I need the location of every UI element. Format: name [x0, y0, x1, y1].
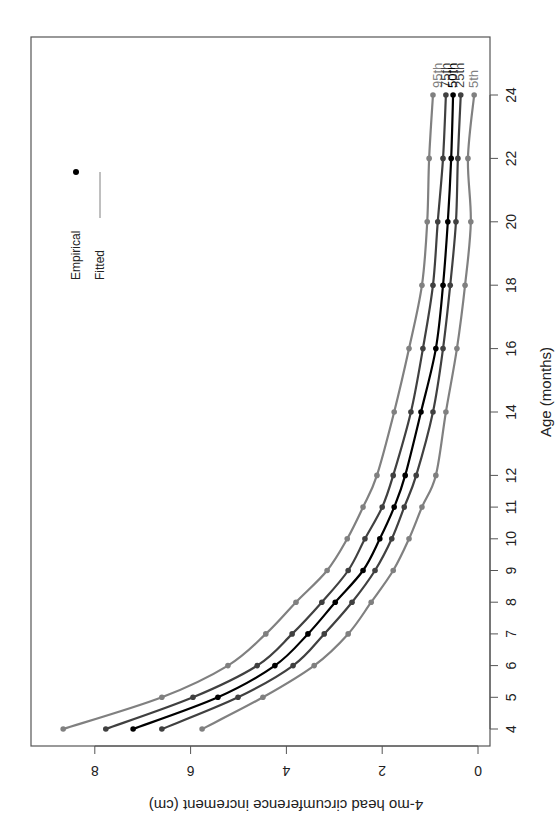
y-tick-label: 0	[474, 763, 482, 779]
empirical-point	[418, 409, 424, 415]
empirical-point	[419, 282, 425, 288]
empirical-point	[462, 282, 468, 288]
empirical-point	[389, 536, 395, 542]
x-tick-label: 24	[503, 87, 519, 103]
x-tick-label: 16	[503, 341, 519, 357]
empirical-point	[453, 219, 459, 225]
legend-empirical-dot-icon	[73, 169, 79, 175]
empirical-point	[450, 92, 456, 98]
empirical-point	[324, 568, 330, 574]
empirical-point	[465, 156, 471, 162]
empirical-point	[402, 473, 408, 479]
x-tick-label: 10	[503, 531, 519, 547]
legend-empirical-label: Empirical	[69, 231, 83, 280]
empirical-point	[443, 409, 449, 415]
x-tick-label: 7	[503, 630, 519, 638]
empirical-point	[433, 473, 439, 479]
series-25th	[159, 92, 463, 732]
empirical-point	[360, 504, 366, 510]
empirical-point	[424, 219, 430, 225]
empirical-point	[379, 504, 385, 510]
x-tick-label: 8	[503, 598, 519, 606]
empirical-point	[332, 599, 338, 605]
x-tick-label: 6	[503, 661, 519, 669]
empirical-point	[293, 599, 299, 605]
x-tick-label: 5	[503, 693, 519, 701]
y-tick-label: 8	[91, 763, 99, 779]
empirical-point	[440, 282, 446, 288]
empirical-point	[401, 504, 407, 510]
fitted-line	[63, 95, 433, 729]
empirical-point	[458, 92, 464, 98]
empirical-point	[321, 631, 327, 637]
empirical-point	[305, 631, 311, 637]
x-axis-title: Age (months)	[537, 347, 554, 437]
empirical-point	[190, 695, 196, 701]
empirical-point	[471, 92, 477, 98]
empirical-point	[362, 536, 368, 542]
empirical-point	[406, 536, 412, 542]
empirical-point	[225, 663, 231, 669]
percentile-chart: 456789101112141618202224 02468 95th75th5…	[0, 0, 560, 839]
empirical-point	[468, 219, 474, 225]
empirical-point	[349, 599, 355, 605]
empirical-point	[426, 156, 432, 162]
empirical-point	[374, 473, 380, 479]
empirical-point	[368, 599, 374, 605]
percentile-labels: 95th75th50th25th5th	[430, 63, 481, 88]
x-tick-label: 9	[503, 566, 519, 574]
empirical-point	[311, 663, 317, 669]
empirical-point	[406, 346, 412, 352]
empirical-point	[360, 568, 366, 574]
empirical-point	[130, 726, 136, 732]
percentile-label-25th: 25th	[452, 63, 467, 88]
empirical-point	[430, 282, 436, 288]
legend-fitted-label: Fitted	[93, 250, 107, 280]
y-tick-label: 4	[282, 763, 290, 779]
empirical-point	[433, 346, 439, 352]
y-axis-increment: 02468	[91, 746, 482, 779]
empirical-point	[254, 663, 260, 669]
empirical-point	[430, 409, 436, 415]
empirical-point	[419, 504, 425, 510]
empirical-point	[215, 695, 221, 701]
x-tick-label: 4	[503, 725, 519, 733]
empirical-point	[103, 726, 109, 732]
x-tick-label: 14	[503, 404, 519, 420]
empirical-point	[159, 695, 165, 701]
legend: Empirical Fitted	[69, 169, 107, 280]
empirical-point	[260, 695, 266, 701]
empirical-point	[345, 631, 351, 637]
x-axis-age: 456789101112141618202224	[490, 87, 519, 733]
series-lines	[60, 92, 477, 732]
empirical-point	[345, 568, 351, 574]
empirical-point	[159, 726, 165, 732]
empirical-point	[420, 346, 426, 352]
empirical-point	[445, 219, 451, 225]
empirical-point	[199, 726, 205, 732]
empirical-point	[430, 92, 436, 98]
fitted-line	[162, 95, 461, 729]
empirical-point	[272, 663, 278, 669]
empirical-point	[377, 536, 383, 542]
empirical-point	[448, 156, 454, 162]
empirical-point	[440, 346, 446, 352]
x-tick-label: 22	[503, 150, 519, 166]
empirical-point	[235, 695, 241, 701]
empirical-point	[454, 346, 460, 352]
x-tick-label: 12	[503, 467, 519, 483]
y-tick-label: 2	[378, 763, 386, 779]
empirical-point	[263, 631, 269, 637]
x-tick-label: 11	[503, 500, 519, 515]
y-axis-title: 4-mo head circumference increment (cm)	[149, 797, 423, 814]
empirical-point	[413, 473, 419, 479]
empirical-point	[372, 568, 378, 574]
percentile-label-5th: 5th	[466, 70, 481, 88]
empirical-point	[440, 156, 446, 162]
empirical-point	[290, 663, 296, 669]
empirical-point	[289, 631, 295, 637]
empirical-point	[443, 92, 449, 98]
empirical-point	[391, 504, 397, 510]
empirical-point	[390, 568, 396, 574]
empirical-point	[391, 409, 397, 415]
